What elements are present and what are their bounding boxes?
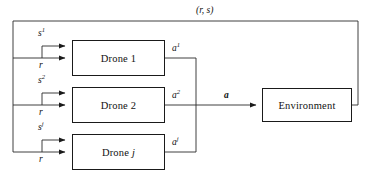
label-reward-2: r xyxy=(39,108,43,118)
state-wire-1 xyxy=(42,46,65,58)
node-drone-j[interactable]: Drone j xyxy=(72,134,165,170)
node-drone-j-label: Drone xyxy=(102,147,129,158)
node-drone-1-index: 1 xyxy=(131,53,136,64)
label-state-1: s1 xyxy=(38,29,45,39)
label-reward-j: r xyxy=(39,155,43,165)
node-drone-1-label: Drone xyxy=(101,53,128,64)
node-drone-2-label: Drone xyxy=(101,100,128,111)
label-reward-1: r xyxy=(39,61,43,71)
label-action-j: aj xyxy=(172,138,179,148)
node-drone-2[interactable]: Drone 2 xyxy=(72,87,165,123)
diagram-canvas: Drone 1 Drone 2 Drone j Environment (r, … xyxy=(0,0,374,180)
node-environment[interactable]: Environment xyxy=(262,88,352,122)
label-state-2: s2 xyxy=(38,76,45,86)
state-wire-j xyxy=(42,140,65,152)
label-joint-action: a xyxy=(224,91,229,101)
node-environment-label: Environment xyxy=(278,100,335,111)
node-drone-1[interactable]: Drone 1 xyxy=(72,40,165,76)
label-action-2: a2 xyxy=(172,91,180,101)
label-state-j: sj xyxy=(38,123,44,133)
node-drone-j-index: j xyxy=(132,147,135,158)
state-wire-2 xyxy=(42,93,65,105)
feedback-riser-right xyxy=(352,21,358,105)
node-drone-2-index: 2 xyxy=(131,100,136,111)
feedback-signal-label: (r, s) xyxy=(196,6,213,16)
label-action-1: a1 xyxy=(172,44,180,54)
